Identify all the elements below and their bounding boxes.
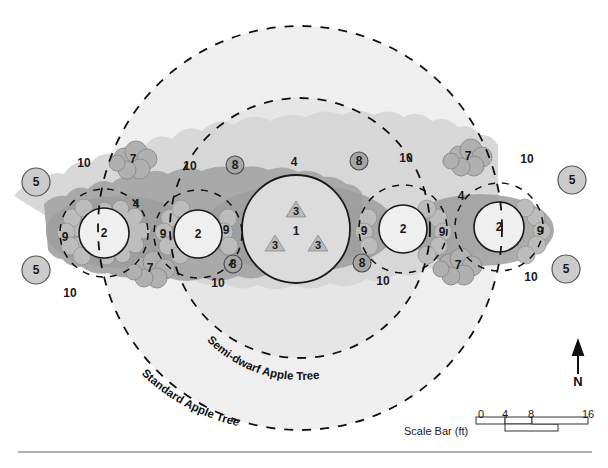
semidwarf-tree-1 <box>79 208 129 258</box>
standard-tree-center <box>242 175 350 283</box>
badge-8-ne <box>350 152 368 170</box>
scale-tick-0: 0 <box>478 408 484 420</box>
north-label: N <box>573 374 582 389</box>
scale-tick-16: 16 <box>582 408 594 420</box>
badge-8-se <box>353 254 371 272</box>
scale-bar-label: Scale Bar (ft) <box>404 425 468 437</box>
badge-8-sw <box>224 255 242 273</box>
semidwarf-tree-3 <box>379 205 427 253</box>
semidwarf-tree-4 <box>474 202 524 252</box>
plant-circle-5-ne <box>558 166 586 194</box>
semidwarf-tree-2 <box>174 210 222 258</box>
figure-canvas: Semi-dwarf Apple Tree Standard Apple Tre… <box>0 0 608 468</box>
planting-plan-svg: Semi-dwarf Apple Tree Standard Apple Tre… <box>0 0 608 468</box>
plant-circle-5-sw <box>22 256 50 284</box>
scale-tick-4: 4 <box>502 408 508 420</box>
plant-circle-5-se <box>552 255 580 283</box>
plant-circle-5-nw <box>22 168 50 196</box>
north-arrow-icon <box>573 341 583 374</box>
badge-8-nw <box>226 156 244 174</box>
scale-tick-8: 8 <box>528 408 534 420</box>
